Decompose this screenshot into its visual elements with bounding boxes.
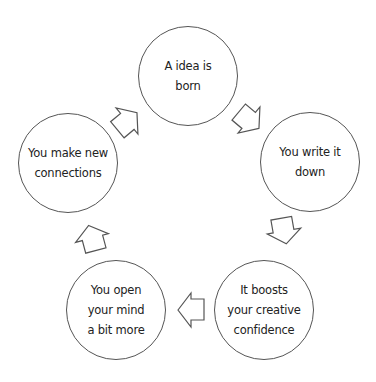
node-label: A idea is born: [158, 56, 217, 96]
node-idea-born: A idea is born: [138, 26, 238, 126]
node-boost-confidence: It boosts your creative confidence: [214, 260, 314, 360]
node-label: You make new connections: [22, 143, 114, 183]
creative-cycle-diagram: A idea is born You write it down It boos…: [0, 0, 376, 382]
arrow-icon-to-open-mind: [178, 293, 204, 327]
node-open-mind: You open your mind a bit more: [66, 260, 166, 360]
arrow-icon-to-boost-confidence: [265, 215, 303, 247]
node-label: You open your mind a bit more: [81, 280, 150, 340]
node-write-down: You write it down: [260, 112, 360, 212]
node-new-connections: You make new connections: [18, 113, 118, 213]
arrow-icon-to-write-down: [228, 99, 270, 142]
node-label: You write it down: [273, 142, 346, 182]
arrow-icon-to-new-connections: [72, 221, 112, 255]
arrow-icon-to-idea-born: [106, 100, 148, 143]
node-label: It boosts your creative confidence: [221, 280, 306, 340]
